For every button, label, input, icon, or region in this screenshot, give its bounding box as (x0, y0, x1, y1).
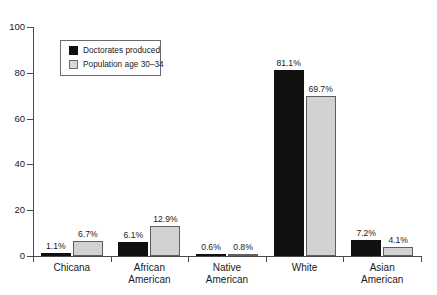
x-axis-category-label: Native American (188, 262, 266, 286)
bar (118, 242, 148, 256)
bar (150, 226, 180, 256)
legend-item-label: Doctorates produced (83, 46, 160, 54)
y-axis-tick (27, 164, 34, 165)
x-axis-line (33, 256, 421, 257)
bar (383, 247, 413, 256)
bar (274, 70, 304, 256)
bar-value-label: 81.1% (267, 59, 311, 68)
bar-value-label: 1.1% (34, 242, 78, 251)
x-axis-category-label: African American (111, 262, 189, 286)
x-axis-category-label: Chicana (33, 262, 111, 274)
y-axis-line (33, 27, 34, 257)
y-axis-tick-label: 100 (1, 22, 25, 32)
bar-value-label: 12.9% (143, 215, 187, 224)
y-axis-tick-label: 60 (1, 114, 25, 124)
y-axis-tick-label: 0 (1, 251, 25, 261)
legend-item-population-age-30-34: Population age 30–34 (69, 60, 164, 69)
bar (228, 254, 258, 256)
bar-value-label: 6.7% (66, 230, 110, 239)
y-axis-tick (27, 119, 34, 120)
y-axis-tick-label: 20 (1, 205, 25, 215)
bar (41, 253, 71, 256)
y-axis-tick-label: 40 (1, 159, 25, 169)
x-axis-category-label: White (266, 262, 344, 274)
legend: Doctorates produced Population age 30–34 (60, 40, 161, 76)
y-axis-tick-label: 80 (1, 68, 25, 78)
legend-item-doctorates-produced: Doctorates produced (69, 46, 160, 55)
bar (73, 241, 103, 256)
bar (306, 96, 336, 256)
y-axis-tick (27, 73, 34, 74)
x-axis-category-label: Asian American (343, 262, 421, 286)
y-axis-tick (27, 210, 34, 211)
bar-value-label: 0.8% (221, 243, 265, 252)
bar (196, 254, 226, 256)
legend-swatch-icon (69, 60, 78, 69)
bar-value-label: 6.1% (111, 231, 155, 240)
bar-value-label: 69.7% (299, 85, 343, 94)
y-axis-tick (27, 27, 34, 28)
legend-item-label: Population age 30–34 (83, 60, 164, 68)
x-axis-tick (421, 256, 422, 262)
bar-chart: 020406080100 1.1%6.7%6.1%12.9%0.6%0.8%81… (0, 0, 437, 295)
bar-value-label: 4.1% (376, 236, 420, 245)
legend-swatch-icon (69, 46, 78, 55)
